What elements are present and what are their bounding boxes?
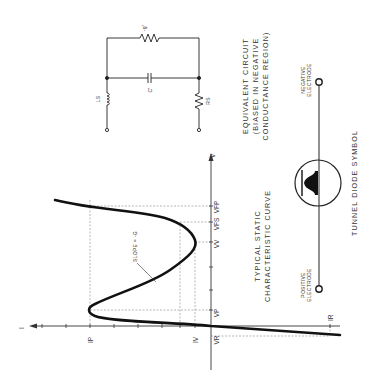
slope-annotation: SLOPE = -G bbox=[132, 231, 138, 262]
series-resistor bbox=[195, 93, 203, 109]
reverse-voltage-label: VR bbox=[213, 335, 220, 344]
capacitance-label: C' bbox=[147, 87, 153, 92]
curve-title-line2: CHARACTERISTIC CURVE bbox=[263, 190, 272, 302]
resistance-label: RS bbox=[205, 97, 211, 105]
negative-conductance-resistor bbox=[140, 34, 159, 42]
terminal-right bbox=[197, 128, 200, 131]
negative-electrode-terminal bbox=[316, 79, 322, 85]
terminal-left bbox=[105, 128, 108, 131]
slope-leader-line bbox=[137, 263, 156, 282]
current-axis-arrow-icon bbox=[29, 324, 37, 329]
negative-conductance-label: -g' bbox=[141, 25, 147, 31]
vfp-label: VFP bbox=[213, 201, 220, 214]
iv-curve bbox=[55, 200, 340, 335]
circuit-title-line1: EQUIVALENT CIRCUIT bbox=[241, 38, 250, 134]
valley-voltage-label: VV bbox=[213, 239, 220, 248]
characteristic-curve-plot: I V IP IV IR VP VV VFS VFP VR SLOPE = -G… bbox=[18, 153, 340, 370]
peak-voltage-label: VP bbox=[213, 309, 220, 318]
positive-electrode-label-2: ELECTRODE bbox=[306, 268, 312, 302]
inductance-label: LS bbox=[95, 95, 101, 102]
tunnel-diode-figure: I V IP IV IR VP VV VFS VFP VR SLOPE = -G… bbox=[0, 0, 376, 374]
diode-junction-dome-icon bbox=[304, 171, 318, 195]
guide-lines bbox=[90, 200, 330, 336]
circuit-title-line3: CONDUCTANCE REGION) bbox=[261, 31, 270, 140]
current-axis-label: I bbox=[18, 327, 25, 329]
vfs-label: VFS bbox=[213, 217, 220, 230]
reverse-current-label: IR bbox=[327, 314, 334, 321]
positive-electrode-terminal bbox=[316, 286, 322, 292]
valley-current-label: IV bbox=[192, 336, 199, 343]
peak-current-label: IP bbox=[87, 337, 94, 343]
series-inductor bbox=[107, 93, 109, 105]
diode-symbol-title: TUNNEL DIODE SYMBOL bbox=[350, 130, 359, 236]
circuit-title-line2: (BIASED IN NEGATIVE bbox=[251, 38, 260, 135]
voltage-axis-label: V bbox=[209, 153, 216, 158]
curve-title-line1: TYPICAL STATIC bbox=[253, 210, 262, 282]
equivalent-circuit bbox=[105, 34, 203, 132]
negative-electrode-label-2: ELECTRODE bbox=[306, 63, 312, 97]
tunnel-diode-symbol bbox=[295, 79, 341, 292]
